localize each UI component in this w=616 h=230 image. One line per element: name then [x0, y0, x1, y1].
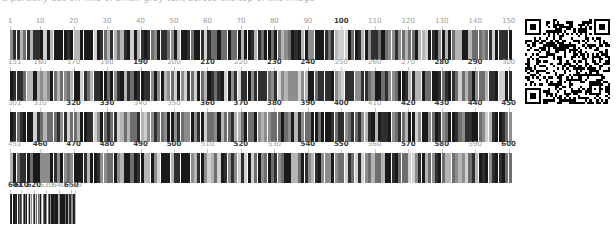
clipped-header-text: a partially cut-off line of small grey t…: [0, 0, 616, 9]
row-2-ruler: 1511601701801902002102202302402502602702…: [10, 58, 512, 71]
ruler-tick-label-151: 151: [8, 58, 21, 66]
ruler-tick-label-1: 1: [8, 17, 12, 25]
ruler-tick-label-590: 590: [468, 140, 481, 148]
ruler-tick-label-190: 190: [133, 58, 148, 66]
row-4[interactable]: 4514604704804905005105205305405505605705…: [10, 140, 512, 183]
ruler-tick-label-370: 370: [234, 99, 249, 107]
ruler-tick-label-600: 600: [501, 140, 516, 148]
ruler-tick-label-480: 480: [100, 140, 115, 148]
row-1[interactable]: 1102030405060708090100110120130140150: [10, 17, 512, 60]
ruler-tick-label-110: 110: [368, 17, 381, 25]
ruler-tick-label-550: 550: [334, 140, 349, 148]
row-1-ruler: 1102030405060708090100110120130140150: [10, 17, 512, 30]
ruler-tick-label-530: 530: [268, 140, 281, 148]
ruler-tick-label-451: 451: [8, 140, 21, 148]
ruler-tick-label-470: 470: [66, 140, 81, 148]
ruler-tick-label-290: 290: [468, 58, 483, 66]
ruler-tick-label-210: 210: [200, 58, 215, 66]
ruler-tick-label-180: 180: [100, 58, 113, 66]
ruler-tick-label-160: 160: [33, 58, 46, 66]
ruler-tick-label-520: 520: [234, 140, 249, 148]
ruler-tick-label-100: 100: [334, 17, 349, 25]
sequence-bar: [509, 30, 512, 60]
ruler-tick-label-653: 653: [68, 181, 81, 189]
ruler-tick-label-310: 310: [33, 99, 46, 107]
ruler-tick-label-280: 280: [434, 58, 449, 66]
ruler-tick-label-400: 400: [334, 99, 349, 107]
ruler-tick-label-510: 510: [201, 140, 214, 148]
sequence-bar: [509, 112, 512, 142]
row-3-barcode[interactable]: [10, 112, 512, 142]
ruler-tick-label-30: 30: [103, 17, 112, 25]
ruler-tick-label-60: 60: [203, 17, 212, 25]
ruler-tick-label-350: 350: [167, 99, 180, 107]
ruler-tick-label-80: 80: [270, 17, 279, 25]
ruler-tick-label-380: 380: [267, 99, 282, 107]
sequence-bar: [509, 71, 512, 101]
sequence-map-page: a partially cut-off line of small grey t…: [0, 0, 616, 230]
ruler-tick-label-490: 490: [133, 140, 148, 148]
ruler-tick-label-330: 330: [100, 99, 115, 107]
ruler-tick-label-360: 360: [200, 99, 215, 107]
ruler-tick-label-250: 250: [335, 58, 348, 66]
ruler-tick-label-10: 10: [36, 17, 45, 25]
ruler-tick-label-340: 340: [134, 99, 147, 107]
ruler-tick-label-560: 560: [368, 140, 381, 148]
ruler-tick-label-450: 450: [501, 99, 516, 107]
ruler-tick-label-410: 410: [368, 99, 381, 107]
ruler-tick-label-540: 540: [301, 140, 316, 148]
row-1-barcode[interactable]: [10, 30, 512, 60]
ruler-tick-label-320: 320: [66, 99, 81, 107]
ruler-tick-label-20: 20: [69, 17, 78, 25]
row-2[interactable]: 1511601701801902002102202302402502602702…: [10, 58, 512, 101]
qr-code-container[interactable]: [525, 19, 610, 104]
ruler-tick-label-580: 580: [434, 140, 449, 148]
ruler-tick-label-230: 230: [267, 58, 282, 66]
row-3-ruler: 3013103203303403503603703803904004104204…: [10, 99, 512, 112]
ruler-tick-label-440: 440: [468, 99, 483, 107]
row-4-barcode[interactable]: [10, 153, 512, 183]
ruler-tick-label-420: 420: [401, 99, 416, 107]
row-3[interactable]: 3013103203303403503603703803904004104204…: [10, 99, 512, 142]
row-2-barcode[interactable]: [10, 71, 512, 101]
ruler-tick-label-150: 150: [502, 17, 515, 25]
ruler-tick-label-570: 570: [401, 140, 416, 148]
qr-code[interactable]: [525, 19, 610, 104]
ruler-tick-label-260: 260: [368, 58, 381, 66]
row-5[interactable]: 601610620630640650653: [10, 181, 198, 224]
ruler-tick-label-40: 40: [136, 17, 145, 25]
ruler-tick-label-200: 200: [167, 58, 180, 66]
ruler-tick-label-300: 300: [502, 58, 515, 66]
ruler-tick-label-90: 90: [303, 17, 312, 25]
ruler-tick-label-430: 430: [434, 99, 449, 107]
ruler-tick-label-240: 240: [301, 58, 316, 66]
ruler-tick-label-460: 460: [33, 140, 48, 148]
ruler-tick-label-301: 301: [8, 99, 21, 107]
ruler-tick-label-500: 500: [167, 140, 182, 148]
header-text-line: a partially cut-off line of small grey t…: [2, 0, 315, 3]
ruler-tick-label-270: 270: [402, 58, 415, 66]
ruler-tick-label-120: 120: [402, 17, 415, 25]
ruler-tick-label-630: 630: [40, 181, 53, 189]
sequence-bar: [75, 194, 76, 224]
ruler-tick-label-50: 50: [170, 17, 179, 25]
ruler-tick-label-390: 390: [301, 99, 316, 107]
ruler-tick-label-220: 220: [234, 58, 247, 66]
ruler-tick-label-140: 140: [468, 17, 481, 25]
ruler-tick-label-70: 70: [236, 17, 245, 25]
ruler-tick-label-130: 130: [435, 17, 448, 25]
ruler-tick-label-170: 170: [67, 58, 80, 66]
sequence-bar: [509, 153, 512, 183]
row-5-barcode[interactable]: [10, 194, 198, 224]
row-5-ruler: 601610620630640650653: [10, 181, 198, 194]
row-4-ruler: 4514604704804905005105205305405505605705…: [10, 140, 512, 153]
